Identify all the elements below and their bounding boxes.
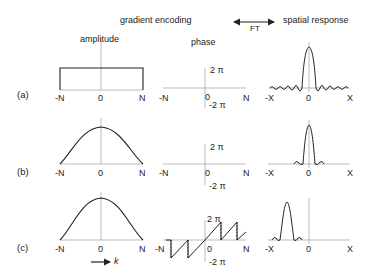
row-b-phase-bottom: -2 π — [209, 182, 226, 191]
header-title: gradient encoding — [120, 16, 192, 25]
row-a-spatial-tick-zero: 0 — [306, 94, 311, 103]
row-b-amp-tick-pos: N — [139, 169, 146, 178]
row-c-spatial-tick-pos: X — [347, 245, 353, 254]
row-a-amp-tick-pos: N — [139, 94, 146, 103]
row-b-phase-tick-neg: -N — [159, 169, 169, 178]
row-a-spatial-tick-pos: X — [347, 94, 353, 103]
row-a-phase-plot — [163, 68, 246, 108]
row-c-amp-tick-neg: -N — [55, 245, 65, 254]
row-c-amp-tick-zero: 0 — [98, 245, 103, 254]
row-a-label: (a) — [17, 90, 29, 100]
row-a-phase-tick-neg: -N — [159, 94, 169, 103]
ft-label: FT — [250, 25, 260, 33]
row-c-phase-tick-zero: 0 — [207, 245, 212, 254]
row-b-amplitude-plot — [60, 118, 143, 164]
row-b-phase-top: 2 π — [210, 143, 224, 152]
row-c-phase-tick-neg: -N — [155, 245, 165, 254]
row-b-spatial-plot — [268, 120, 350, 168]
row-c-spatial-tick-zero: 0 — [306, 245, 311, 254]
row-b-label: (b) — [17, 167, 29, 177]
row-c-phase-top: 2 π — [207, 215, 221, 224]
row-c-phase-tick-pos: N — [243, 245, 250, 254]
row-c-label: (c) — [17, 243, 28, 253]
row-b-spatial-tick-pos: X — [347, 169, 353, 178]
row-b-spatial-tick-neg: -X — [265, 169, 274, 178]
row-c-spatial-plot — [268, 198, 350, 244]
row-c-amplitude-plot — [60, 192, 143, 240]
row-b-amp-tick-neg: -N — [55, 169, 65, 178]
row-a-amp-tick-zero: 0 — [98, 94, 103, 103]
row-b-phase-plot — [163, 144, 246, 185]
row-c-phase-plot — [163, 220, 246, 262]
row-a-spatial-plot — [268, 42, 350, 92]
diagram-canvas — [0, 0, 374, 280]
row-c-spatial-tick-neg: -X — [265, 245, 274, 254]
row-c-amp-tick-pos: N — [139, 245, 146, 254]
row-c-phase-bottom: -2 π — [209, 258, 226, 267]
row-a-phase-top: 2 π — [210, 66, 224, 75]
row-b-amp-tick-zero: 0 — [98, 169, 103, 178]
row-a-spatial-tick-neg: -X — [265, 94, 274, 103]
row-a-phase-bottom: -2 π — [209, 101, 226, 110]
row-a-amplitude-plot — [60, 38, 143, 90]
row-b-phase-tick-zero: 0 — [205, 169, 210, 178]
row-b-phase-tick-pos: N — [243, 169, 250, 178]
row-b-spatial-tick-zero: 0 — [306, 169, 311, 178]
row-a-phase-tick-pos: N — [243, 94, 250, 103]
spatial-response-title: spatial response — [283, 16, 349, 25]
amplitude-column-title: amplitude — [80, 35, 119, 44]
phase-column-title: phase — [191, 38, 216, 47]
k-axis-label: k — [114, 257, 119, 266]
row-a-amp-tick-neg: -N — [55, 94, 65, 103]
